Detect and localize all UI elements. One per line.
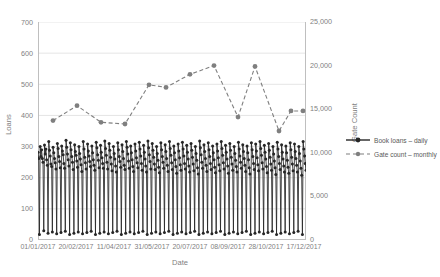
- solid-line-marker-icon: [345, 135, 371, 145]
- y2-axis-tick-5000: 5,000: [310, 192, 346, 200]
- y-axis-tick-700: 700: [3, 19, 33, 27]
- x-axis-title: Date: [140, 258, 220, 267]
- y2-axis-tick-20000: 20,000: [310, 62, 346, 70]
- y-axis-tick-500: 500: [3, 81, 33, 89]
- y-axis-tick-600: 600: [3, 50, 33, 58]
- y2-axis-tick-15000: 15,000: [310, 105, 346, 113]
- series-book-loans-daily: [38, 139, 306, 236]
- y2-axis-tick-25000: 25,000: [310, 18, 346, 26]
- y-axis-tick-100: 100: [3, 205, 33, 213]
- legend-label-gate-count: Gate count – monthly: [374, 151, 437, 158]
- y-axis-title: Loans: [4, 103, 13, 147]
- plot-area: [38, 22, 306, 240]
- y-axis-tick-200: 200: [3, 174, 33, 182]
- legend: Book loans – daily Gate count – monthly: [345, 133, 440, 161]
- plot-svg: [38, 22, 306, 240]
- legend-item-book-loans: Book loans – daily: [345, 133, 440, 147]
- legend-label-book-loans: Book loans – daily: [374, 137, 428, 144]
- series-gate-count-monthly: [51, 63, 306, 133]
- chart-container: 0 100 200 300 400 500 600 700 0 5,000 10…: [0, 0, 440, 277]
- x-axis-tick-7: 17/12/2017: [274, 243, 334, 251]
- y2-axis-tick-10000: 10,000: [310, 149, 346, 157]
- legend-item-gate-count: Gate count – monthly: [345, 147, 440, 161]
- dashed-line-marker-icon: [345, 149, 371, 159]
